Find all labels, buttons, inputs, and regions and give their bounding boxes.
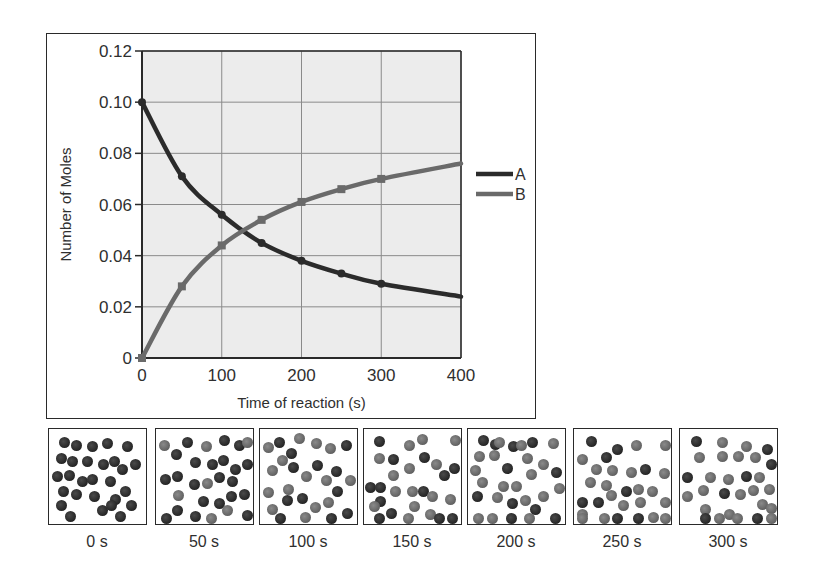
snapshot-time-label: 200 s <box>466 533 566 551</box>
molecule-a-icon <box>67 456 78 467</box>
molecule-b-icon <box>524 513 535 524</box>
molecule-b-icon <box>388 470 399 481</box>
molecule-a-icon <box>551 467 562 478</box>
molecule-b-icon <box>159 440 170 451</box>
molecule-a-icon <box>633 513 644 524</box>
data-point-marker <box>258 239 266 247</box>
molecule-b-icon <box>647 486 658 497</box>
data-point-marker <box>298 198 306 206</box>
snapshot-box <box>259 428 358 525</box>
molecule-a-icon <box>449 463 460 474</box>
snapshot-time-label: 250 s <box>572 533 672 551</box>
molecule-b-icon <box>492 492 503 503</box>
molecule-a-icon <box>98 459 109 470</box>
molecule-b-icon <box>345 475 356 486</box>
molecule-b-icon <box>606 490 617 501</box>
molecule-a-icon <box>719 488 730 499</box>
molecule-b-icon <box>494 437 505 448</box>
data-point-marker <box>298 257 306 265</box>
y-tick-label: 0.02 <box>99 298 132 317</box>
molecule-b-icon <box>659 468 670 479</box>
molecule-b-icon <box>538 459 549 470</box>
molecule-a-icon <box>741 471 752 482</box>
molecule-b-icon <box>473 513 484 524</box>
y-axis-label: Number of Moles <box>57 147 74 261</box>
molecule-a-icon <box>82 456 93 467</box>
snapshot-box <box>573 428 672 525</box>
data-point-marker <box>337 185 345 193</box>
molecule-a-icon <box>621 486 632 497</box>
molecule-a-icon <box>527 437 538 448</box>
molecule-b-icon <box>717 437 728 448</box>
line-chart: 00.020.040.060.080.100.120100200300400Ti… <box>47 34 537 420</box>
molecule-b-icon <box>201 441 212 452</box>
molecule-a-icon <box>386 508 397 519</box>
snapshot-time-label: 100 s <box>258 533 358 551</box>
snapshot-box <box>467 428 566 525</box>
molecule-b-icon <box>626 467 637 478</box>
molecule-a-icon <box>65 511 76 522</box>
x-tick-label: 200 <box>287 366 315 385</box>
molecule-b-icon <box>520 495 531 506</box>
data-point-marker <box>377 280 385 288</box>
molecule-b-icon <box>407 486 418 497</box>
molecule-a-icon <box>502 463 513 474</box>
molecule-a-icon <box>612 444 623 455</box>
molecule-b-icon <box>733 451 744 462</box>
molecule-b-icon <box>717 451 728 462</box>
snapshot-time-label: 150 s <box>362 533 462 551</box>
molecule-b-icon <box>631 440 642 451</box>
molecule-a-icon <box>56 453 67 464</box>
molecule-a-icon <box>297 493 308 504</box>
legend-label-B: B <box>515 186 526 203</box>
molecule-a-icon <box>161 513 172 524</box>
x-tick-label: 100 <box>208 366 236 385</box>
molecule-b-icon <box>538 491 549 502</box>
molecule-b-icon <box>577 513 588 524</box>
molecule-a-icon <box>507 498 518 509</box>
molecule-a-icon <box>766 459 777 470</box>
molecule-b-icon <box>554 483 565 494</box>
molecule-a-icon <box>691 436 702 447</box>
molecule-a-icon <box>190 457 201 468</box>
molecule-b-icon <box>263 442 274 453</box>
molecule-b-icon <box>635 497 646 508</box>
molecule-b-icon <box>450 435 461 446</box>
molecule-a-icon <box>388 454 399 465</box>
molecule-b-icon <box>723 474 734 485</box>
molecule-a-icon <box>226 491 237 502</box>
molecule-a-icon <box>288 462 299 473</box>
molecule-a-icon <box>160 474 171 485</box>
molecule-b-icon <box>300 512 311 523</box>
molecule-b-icon <box>477 477 488 488</box>
molecule-a-icon <box>601 452 612 463</box>
molecule-a-icon <box>286 448 297 459</box>
molecule-a-icon <box>374 513 385 524</box>
molecule-b-icon <box>694 452 705 463</box>
molecule-b-icon <box>427 491 438 502</box>
data-point-marker <box>258 216 266 224</box>
molecule-b-icon <box>660 497 671 508</box>
molecule-a-icon <box>326 513 337 524</box>
molecule-a-icon <box>331 466 342 477</box>
molecule-a-icon <box>130 459 141 470</box>
molecule-a-icon <box>172 471 183 482</box>
molecule-a-icon <box>752 513 763 524</box>
molecule-a-icon <box>282 495 293 506</box>
molecule-a-icon <box>332 486 343 497</box>
molecule-a-icon <box>59 437 70 448</box>
molecule-a-icon <box>239 489 250 500</box>
data-point-marker <box>377 175 385 183</box>
molecule-a-icon <box>312 460 323 471</box>
molecule-b-icon <box>409 501 420 512</box>
molecule-a-icon <box>105 476 116 487</box>
molecule-a-icon <box>242 459 253 470</box>
molecule-a-icon <box>190 511 201 522</box>
molecule-b-icon <box>585 477 596 488</box>
molecule-b-icon <box>660 513 671 524</box>
molecule-a-icon <box>117 464 128 475</box>
molecule-b-icon <box>750 452 761 463</box>
snapshot-box <box>363 428 462 525</box>
molecule-a-icon <box>198 496 209 507</box>
molecule-b-icon <box>714 513 725 524</box>
